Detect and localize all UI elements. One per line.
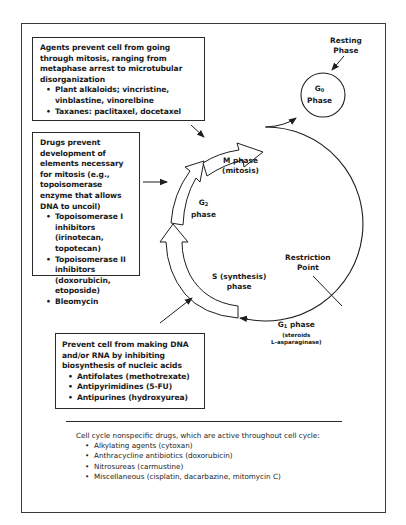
topo-box-heading: Drugs prevent development of elements ne… bbox=[40, 138, 135, 212]
g2-label-line1: G2 bbox=[191, 198, 216, 210]
g2-phase-label: G2 phase bbox=[191, 198, 216, 219]
topo-drug-list: Topoisomerase I inhibitors (irinotecan, … bbox=[40, 212, 135, 307]
list-item: Antipyrimidines (5-FU) bbox=[62, 382, 199, 393]
mitosis-box-arrow bbox=[191, 125, 204, 137]
nucleic-box-heading: Prevent cell from making DNA and/or RNA … bbox=[62, 340, 199, 372]
g1-phase-label: G1 phase (steroids L-asparaginase) bbox=[271, 320, 322, 346]
g1-phase-word: phase bbox=[287, 320, 315, 329]
restriction-label-line2: Point bbox=[285, 263, 331, 273]
list-item: Miscellaneous (cisplatin, dacarbazine, m… bbox=[76, 472, 376, 482]
topoisomerase-box: Drugs prevent development of elements ne… bbox=[32, 132, 140, 276]
m-label-line1: M phase bbox=[222, 156, 259, 166]
nucleic-acid-box: Prevent cell from making DNA and/or RNA … bbox=[55, 333, 205, 409]
g0-subscript: 0 bbox=[321, 87, 324, 93]
restriction-point-mark bbox=[313, 276, 342, 306]
m-label-line2: (mitosis) bbox=[222, 166, 259, 176]
list-item: Antipurines (hydroxyurea) bbox=[62, 393, 199, 404]
list-item: Anthracycline antibiotics (doxorubicin) bbox=[76, 451, 376, 461]
nonspecific-drug-list: Alkylating agents (cytoxan) Anthracyclin… bbox=[76, 441, 376, 482]
list-item: Plant alkaloids; vincristine, vinblastin… bbox=[40, 85, 198, 106]
nonspecific-heading: Cell cycle nonspecific drugs, which are … bbox=[76, 431, 376, 441]
s-phase-arrow bbox=[160, 224, 238, 318]
g2-label-line2: phase bbox=[191, 210, 216, 220]
mitosis-box-heading: Agents prevent cell from going through m… bbox=[40, 43, 198, 85]
g2-subscript: 2 bbox=[205, 201, 208, 207]
m-phase-label: M phase (mitosis) bbox=[222, 156, 259, 175]
nucleic-box-arrow bbox=[160, 298, 192, 323]
g1-arrow bbox=[240, 318, 248, 319]
restriction-point-label: Restriction Point bbox=[285, 253, 331, 272]
section-divider bbox=[66, 421, 342, 422]
to-g0-arrow bbox=[266, 118, 296, 127]
list-item: Topoisomerase II inhibitors (doxorubicin… bbox=[40, 255, 135, 297]
g1-drug-line2: L-asparaginase) bbox=[271, 339, 322, 346]
resting-label-line2: Phase bbox=[330, 46, 362, 56]
s-label-line1: S (synthesis) bbox=[212, 272, 266, 282]
list-item: Taxanes: paclitaxel, docetaxel bbox=[40, 107, 198, 118]
resting-label-line1: Resting bbox=[330, 36, 362, 46]
cell-cycle-circle bbox=[242, 127, 363, 321]
g0-label-line2: Phase bbox=[307, 96, 332, 106]
list-item: Alkylating agents (cytoxan) bbox=[76, 441, 376, 451]
nucleic-drug-list: Antifolates (methotrexate) Antipyrimidin… bbox=[62, 372, 199, 404]
g1-label-line1: G1 phase bbox=[271, 320, 322, 332]
s-phase-label: S (synthesis) phase bbox=[212, 272, 266, 291]
list-item: Nitrosureas (carmustine) bbox=[76, 462, 376, 472]
mitosis-drug-list: Plant alkaloids; vincristine, vinblastin… bbox=[40, 85, 198, 117]
mitosis-agents-box: Agents prevent cell from going through m… bbox=[32, 37, 205, 121]
resting-phase-arrow bbox=[332, 56, 344, 70]
nonspecific-drugs-section: Cell cycle nonspecific drugs, which are … bbox=[76, 431, 376, 482]
s-label-line2: phase bbox=[212, 282, 266, 292]
g1-drug-line1: (steroids bbox=[271, 332, 322, 339]
list-item: Bleomycin bbox=[40, 297, 135, 308]
g0-phase-label: G0 Phase bbox=[307, 84, 332, 105]
resting-phase-label: Resting Phase bbox=[330, 36, 362, 55]
list-item: Topoisomerase I inhibitors (irinotecan, … bbox=[40, 212, 135, 254]
list-item: Antifolates (methotrexate) bbox=[62, 372, 199, 383]
restriction-label-line1: Restriction bbox=[285, 253, 331, 263]
g0-label-line1: G0 bbox=[307, 84, 332, 96]
